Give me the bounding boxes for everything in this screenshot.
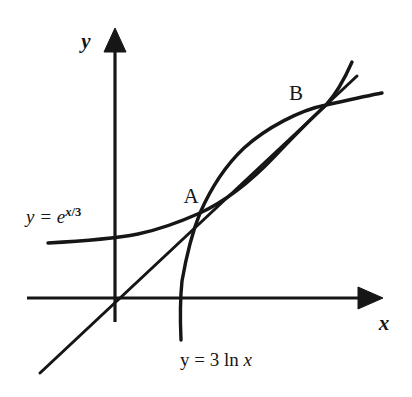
logarithm-equation-label: y = 3 ln x	[180, 349, 253, 370]
exp-eq-exponent-denominator: 3	[75, 205, 81, 219]
x-axis-arrowhead	[358, 287, 383, 309]
y-axis-label: y	[78, 29, 91, 53]
exp-eq-base: y = e	[24, 206, 65, 227]
figure-root: y x A B y = ex/3 y = 3 ln x	[0, 0, 412, 397]
logarithm-curve	[180, 93, 382, 340]
x-axis-label: x	[378, 311, 390, 335]
identity-line	[40, 76, 357, 373]
graph-canvas: y x A B y = ex/3 y = 3 ln x	[0, 0, 412, 397]
log-eq-lhs: y = 3 ln	[180, 349, 244, 370]
identity-line-group	[40, 76, 357, 373]
logarithm-curve-group	[180, 93, 382, 340]
svg-text:y = 3 ln x: y = 3 ln x	[180, 349, 253, 370]
exponential-equation-label: y = ex/3	[24, 205, 81, 227]
exp-eq-exponent-numerator: x	[64, 205, 71, 219]
y-axis-arrowhead	[104, 28, 126, 52]
log-eq-variable: x	[243, 349, 253, 370]
svg-text:y = ex/3: y = ex/3	[24, 205, 81, 227]
axes-group	[27, 28, 383, 322]
point-label-b: B	[289, 81, 303, 105]
point-label-a: A	[183, 184, 199, 208]
